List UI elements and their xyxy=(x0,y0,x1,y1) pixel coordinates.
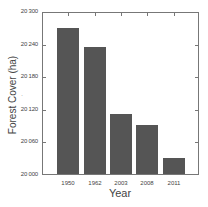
y-tick-label: 20 300 xyxy=(2,8,38,14)
y-tick xyxy=(42,142,46,143)
bar-1962 xyxy=(84,47,106,174)
bar-2003 xyxy=(110,114,132,174)
y-axis-label-mark: · xyxy=(21,92,23,98)
x-tick-top xyxy=(95,12,96,16)
y-axis-label: Forest Cover (ha) xyxy=(7,56,18,134)
x-axis-label: Year xyxy=(100,187,140,199)
y-tick-label: 20 060 xyxy=(2,138,38,144)
y-tick-right xyxy=(195,110,199,111)
y-tick-label: 20 240 xyxy=(2,41,38,47)
y-tick-right xyxy=(195,142,199,143)
bar-1950 xyxy=(57,28,79,174)
x-tick-label: 2011 xyxy=(159,180,189,186)
y-tick-label: 20 000 xyxy=(2,171,38,177)
bar-2011 xyxy=(163,158,185,174)
plot-area xyxy=(42,12,199,175)
y-tick-right xyxy=(195,77,199,78)
x-tick-top xyxy=(68,12,69,16)
y-tick xyxy=(42,110,46,111)
bar-2008 xyxy=(136,125,158,174)
x-tick-label: 1950 xyxy=(53,180,83,186)
x-tick-top xyxy=(121,12,122,16)
x-tick-top xyxy=(174,12,175,16)
y-tick-right xyxy=(195,45,199,46)
x-tick-label: 2008 xyxy=(132,180,162,186)
y-tick xyxy=(42,77,46,78)
x-tick-top xyxy=(147,12,148,16)
y-tick xyxy=(42,45,46,46)
